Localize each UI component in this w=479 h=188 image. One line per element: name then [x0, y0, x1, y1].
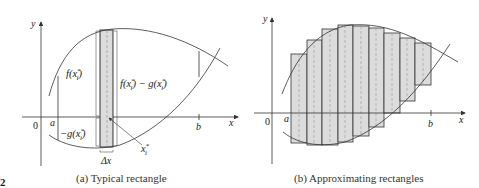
- panel-b: y x 0 a b: [254, 13, 465, 164]
- xi-star-label: x*i: [140, 142, 149, 157]
- caption-b: (b) Approximating rectangles: [294, 172, 424, 184]
- fg-bracket: [114, 31, 117, 146]
- g-bracket: [96, 118, 99, 146]
- rectangle: [400, 38, 415, 101]
- f-xi-label: f(x*i): [66, 67, 83, 82]
- delta-x-label: Δx: [100, 155, 112, 166]
- area-between-curves-diagram: y x 0 a b f(x*i) f(x*i) − g(x*i) −g(x*i)…: [0, 0, 479, 188]
- y-axis-label: y: [262, 13, 268, 24]
- caption-a: (a) Typical rectangle: [76, 172, 167, 184]
- rectangle: [307, 40, 322, 145]
- panel-a: y x 0 a b f(x*i) f(x*i) − g(x*i) −g(x*i)…: [22, 18, 238, 166]
- x-axis-label: x: [458, 114, 464, 125]
- typical-rectangle: [100, 30, 113, 147]
- a-label: a: [50, 117, 55, 128]
- origin-label: 0: [33, 120, 38, 131]
- origin-label: 0: [265, 116, 270, 127]
- b-label: b: [428, 118, 433, 129]
- f-bracket: [96, 31, 99, 116]
- xi-star-pointer: [109, 118, 142, 145]
- figure-number: 2: [0, 176, 6, 188]
- neg-g-label: −g(x*i): [60, 127, 86, 142]
- f-minus-g-label: f(x*i) − g(x*i): [120, 77, 167, 92]
- rectangle: [369, 28, 384, 127]
- y-axis-label: y: [30, 18, 36, 29]
- delta-x-bracket: [100, 150, 113, 152]
- rectangle: [338, 25, 353, 142]
- x-axis-label: x: [228, 117, 234, 128]
- b-label: b: [196, 121, 201, 132]
- a-label: a: [284, 113, 289, 124]
